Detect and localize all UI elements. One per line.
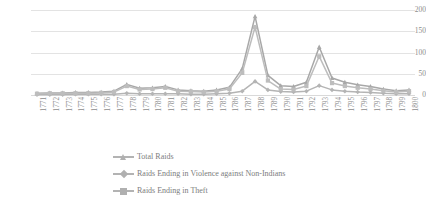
data-point [176, 89, 180, 93]
x-axis-label-1780: 1780 [155, 97, 163, 111]
data-point [343, 84, 347, 88]
legend-marker-diamond-icon [113, 169, 134, 179]
x-axis-label-1787: 1787 [245, 97, 253, 111]
x-axis-label-1791: 1791 [297, 97, 305, 111]
x-axis-label-1797: 1797 [374, 97, 382, 111]
x-axis-label-1772: 1772 [53, 97, 61, 111]
data-point [368, 87, 372, 91]
x-axis-label-1776: 1776 [104, 97, 112, 111]
data-point [266, 78, 270, 82]
x-axis-label-1775: 1775 [91, 97, 99, 111]
data-point [317, 54, 321, 58]
legend-label-theft: Raids Ending in Theft [137, 186, 208, 195]
x-axis-label-1799: 1799 [399, 97, 407, 111]
data-point [381, 89, 385, 93]
x-axis-label-1783: 1783 [194, 97, 202, 111]
legend-marker-square-icon [113, 186, 134, 196]
data-point [189, 90, 193, 94]
legend-label-total-raids: Total Raids [137, 152, 174, 161]
x-axis-label-1774: 1774 [78, 97, 86, 111]
x-axis-label-1793: 1793 [322, 97, 330, 111]
legend-item-violence: Raids Ending in Violence against Non-Ind… [113, 165, 413, 182]
x-axis-label-1798: 1798 [386, 97, 394, 111]
data-point [35, 92, 39, 96]
data-point [227, 87, 231, 91]
x-axis-label-1779: 1779 [143, 97, 151, 111]
x-axis-label-1800: 1800 [412, 97, 420, 111]
data-point [86, 91, 90, 95]
data-point [291, 87, 295, 91]
data-point [163, 86, 167, 90]
data-point [317, 83, 322, 88]
data-point [73, 91, 77, 95]
data-point [48, 91, 52, 95]
data-point [138, 87, 142, 91]
x-axis-label-1782: 1782 [181, 97, 189, 111]
data-point [356, 86, 360, 90]
x-axis-label-1771: 1771 [40, 97, 48, 111]
x-axis-label-1790: 1790 [284, 97, 292, 111]
x-axis-label-1794: 1794 [335, 97, 343, 111]
data-point [304, 84, 308, 88]
data-point [61, 91, 65, 95]
x-axis-label-1781: 1781 [168, 97, 176, 111]
data-point [124, 91, 129, 96]
x-axis-label-1778: 1778 [130, 97, 138, 111]
data-point [279, 87, 283, 91]
legend-item-total-raids: Total Raids [113, 148, 413, 165]
x-axis-label-1785: 1785 [220, 97, 228, 111]
x-axis-label-1786: 1786 [232, 97, 240, 111]
chart-container: 200 150 100 50 0 17711772177317741775177… [0, 0, 426, 205]
series-line [37, 16, 409, 93]
x-axis-label-1773: 1773 [66, 97, 74, 111]
legend-label-violence: Raids Ending in Violence against Non-Ind… [137, 169, 285, 178]
plot-area [31, 10, 415, 95]
data-point [343, 89, 348, 94]
x-axis-label-1777: 1777 [117, 97, 125, 111]
data-point [317, 45, 322, 49]
data-point [253, 25, 257, 29]
x-axis-label-1796: 1796 [361, 97, 369, 111]
x-axis-label-1795: 1795 [348, 97, 356, 111]
series-triangle [35, 14, 412, 95]
x-axis-label-1788: 1788 [258, 97, 266, 111]
legend-item-theft: Raids Ending in Theft [113, 182, 413, 199]
data-point [214, 89, 218, 93]
x-axis-label-1784: 1784 [207, 97, 215, 111]
x-axis-label-1789: 1789 [271, 97, 279, 111]
data-point [227, 91, 232, 96]
legend-marker-triangle-icon [113, 152, 134, 162]
data-point [394, 90, 398, 94]
data-point [202, 90, 206, 94]
data-point [125, 84, 129, 88]
data-point [304, 89, 309, 94]
data-point [99, 91, 103, 95]
data-point [355, 90, 360, 95]
x-axis-label-1792: 1792 [309, 97, 317, 111]
data-point [112, 90, 116, 94]
data-point [240, 71, 244, 75]
chart-legend: Total Raids Raids Ending in Violence aga… [113, 148, 413, 203]
data-point [330, 81, 334, 85]
data-point [150, 87, 154, 91]
data-point [330, 88, 335, 93]
x-axis-labels: 1771177217731774177517761777177817791780… [31, 97, 415, 143]
data-point [253, 14, 258, 18]
series-square [35, 25, 411, 96]
data-point [407, 89, 411, 93]
series-plot [31, 10, 415, 95]
